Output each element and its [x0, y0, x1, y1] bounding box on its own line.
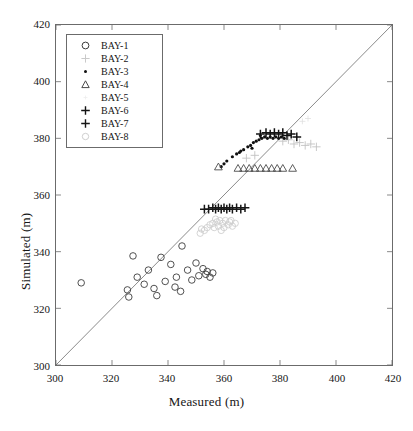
x-tick-label: 320 — [91, 372, 131, 384]
legend-item: BAY-6 — [67, 104, 162, 117]
x-tick-label: 420 — [373, 372, 413, 384]
y-tick-label: 380 — [18, 132, 50, 144]
blank-marker-icon — [73, 92, 97, 103]
legend-item: BAY-4 — [67, 78, 162, 91]
y-tick-label: 360 — [18, 189, 50, 201]
x-tick-label: 400 — [317, 372, 357, 384]
legend-item: BAY-8 — [67, 130, 162, 143]
plus-bold-marker-icon — [73, 118, 97, 129]
dot-marker-icon — [73, 66, 97, 77]
legend: BAY-1 BAY-2 BAY-3 BAY-4 BAY-5 — [66, 34, 163, 148]
y-tick-label: 420 — [18, 18, 50, 30]
x-tick-label: 380 — [260, 372, 300, 384]
series-bay-1 — [78, 243, 216, 301]
x-tick-label: 300 — [35, 372, 75, 384]
triangle-open-marker-icon — [73, 79, 97, 90]
y-tick-label: 300 — [18, 360, 50, 372]
legend-item-label: BAY-4 — [97, 79, 128, 90]
y-tick-label: 320 — [18, 303, 50, 315]
legend-item: BAY-7 — [67, 117, 162, 130]
legend-item: BAY-3 — [67, 65, 162, 78]
legend-item-label: BAY-7 — [97, 118, 128, 129]
plus-bold-marker-icon — [73, 105, 97, 116]
series-bay-3 — [220, 134, 286, 168]
x-tick-label: 340 — [147, 372, 187, 384]
legend-item: BAY-5 — [67, 91, 162, 104]
legend-item: BAY-2 — [67, 52, 162, 65]
legend-item-label: BAY-3 — [97, 66, 128, 77]
scatter-plot-figure: 420 400 380 360 340 320 300 300 320 340 … — [0, 0, 413, 431]
y-axis-title: Simulated (m) — [18, 213, 34, 290]
plus-faint-marker-icon — [73, 53, 97, 64]
x-axis-title: Measured (m) — [0, 394, 413, 410]
y-tick-label: 400 — [18, 75, 50, 87]
series-bay-4 — [215, 163, 297, 171]
x-tick-label: 360 — [204, 372, 244, 384]
series-bay-2 — [242, 136, 320, 163]
legend-item-label: BAY-5 — [97, 92, 128, 103]
series-bay-8 — [197, 216, 238, 237]
legend-item-label: BAY-8 — [97, 131, 128, 142]
circle-faint-marker-icon — [73, 131, 97, 142]
circle-open-marker-icon — [73, 40, 97, 51]
legend-item: BAY-1 — [67, 39, 162, 52]
legend-item-label: BAY-2 — [97, 53, 128, 64]
legend-item-label: BAY-6 — [97, 105, 128, 116]
legend-item-label: BAY-1 — [97, 40, 128, 51]
